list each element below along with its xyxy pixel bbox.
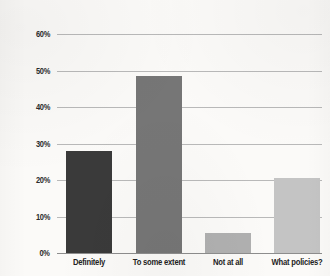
bar-chart: 0%10%20%30%40%50%60%DefinitelyTo some ex… xyxy=(0,0,330,276)
y-axis-tick-label: 10% xyxy=(36,212,50,222)
y-axis-tick: 30% xyxy=(0,139,50,150)
y-axis-tick-label: 40% xyxy=(36,102,50,112)
y-axis-tick: 20% xyxy=(0,175,50,186)
axis-baseline xyxy=(57,253,322,254)
x-axis-label: What policies? xyxy=(252,257,330,267)
y-axis-tick-label: 20% xyxy=(36,175,50,185)
gridline xyxy=(57,34,322,35)
y-axis-tick: 50% xyxy=(0,66,50,77)
gridline xyxy=(57,107,322,108)
bar xyxy=(136,76,182,253)
gridline xyxy=(57,144,322,145)
gridline xyxy=(57,71,322,72)
y-axis-tick: 10% xyxy=(0,212,50,223)
bar xyxy=(205,233,251,253)
y-axis-tick: 40% xyxy=(0,102,50,113)
y-axis-tick: 0% xyxy=(0,248,50,259)
y-axis-tick-label: 60% xyxy=(36,29,50,39)
y-axis-tick-label: 30% xyxy=(36,139,50,149)
plot-area: 0%10%20%30%40%50%60%DefinitelyTo some ex… xyxy=(0,0,330,276)
bar xyxy=(66,151,112,253)
y-axis-tick-label: 50% xyxy=(36,66,50,76)
bar xyxy=(274,178,320,253)
y-axis-tick: 60% xyxy=(0,29,50,40)
